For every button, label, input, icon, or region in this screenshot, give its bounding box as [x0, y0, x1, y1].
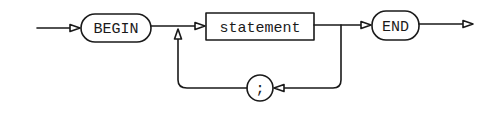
separator-label: ;	[255, 81, 264, 98]
begin-label: BEGIN	[93, 21, 138, 38]
syntax-diagram: BEGIN statement END ;	[0, 0, 491, 114]
exit-arrow-icon	[463, 21, 473, 28]
statement-label: statement	[219, 20, 300, 37]
arrow-into-begin-icon	[70, 25, 80, 32]
loop-left-path	[178, 38, 247, 88]
end-label: END	[382, 19, 409, 36]
arrow-into-separator-icon	[274, 85, 284, 92]
arrow-into-end-icon	[361, 22, 371, 29]
loop-up-arrow-icon	[175, 29, 182, 39]
arrow-into-statement-icon	[195, 23, 205, 30]
